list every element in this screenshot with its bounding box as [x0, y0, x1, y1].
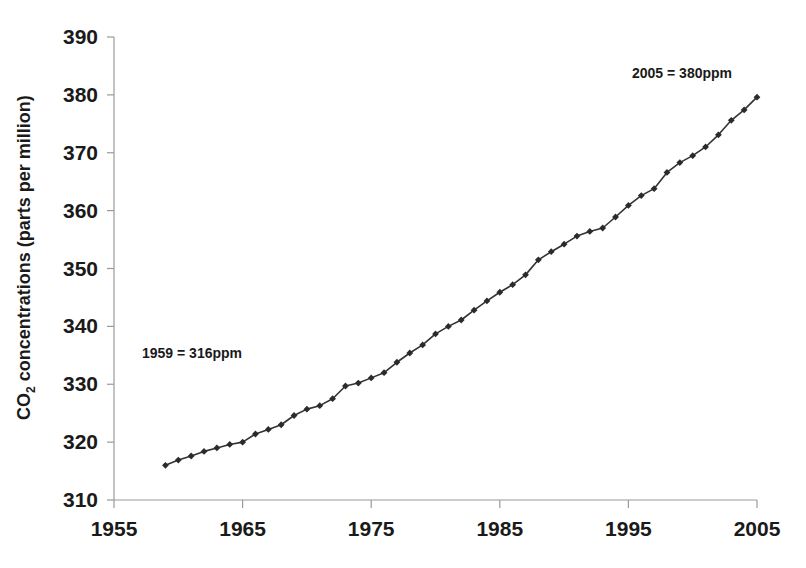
data-series-co2: [162, 94, 760, 469]
start-annotation: 1959 = 316ppm: [142, 345, 242, 361]
y-axis-title-suffix: concentrations (parts per million): [14, 95, 34, 386]
x-axis-ticks: 195519651975198519952005: [91, 500, 781, 540]
y-tick-label: 340: [63, 314, 98, 337]
y-tick-label: 380: [63, 83, 98, 106]
y-tick-label: 360: [63, 199, 98, 222]
data-point-marker: [162, 462, 169, 469]
data-point-marker: [316, 402, 323, 409]
y-axis-title: CO2 concentrations (parts per million): [14, 95, 38, 420]
data-point-marker: [226, 441, 233, 448]
co2-line-chart: CO2 concentrations (parts per million) 3…: [0, 0, 806, 568]
y-axis-title-prefix: CO: [14, 393, 34, 420]
data-point-marker: [201, 448, 208, 455]
data-point-marker: [188, 453, 195, 460]
y-tick-label: 330: [63, 372, 98, 395]
series-markers: [162, 94, 760, 469]
data-point-marker: [445, 323, 452, 330]
x-tick-label: 1965: [219, 517, 266, 540]
svg-text:CO2 concentrations (parts per: CO2 concentrations (parts per million): [14, 95, 38, 420]
x-tick-label: 1955: [91, 517, 138, 540]
x-tick-label: 1985: [476, 517, 523, 540]
series-line: [165, 97, 757, 465]
y-tick-label: 320: [63, 430, 98, 453]
y-tick-label: 350: [63, 257, 98, 280]
y-tick-label: 310: [63, 488, 98, 511]
data-point-marker: [368, 374, 375, 381]
data-point-marker: [265, 426, 272, 433]
y-axis-ticks: 310320330340350360370380390: [63, 25, 114, 511]
data-point-marker: [586, 228, 593, 235]
y-tick-label: 370: [63, 141, 98, 164]
data-point-marker: [175, 457, 182, 464]
chart-page: CO2 concentrations (parts per million) 3…: [0, 0, 806, 568]
x-tick-label: 1995: [605, 517, 652, 540]
x-tick-label: 1975: [348, 517, 395, 540]
y-tick-label: 390: [63, 25, 98, 48]
x-tick-label: 2005: [734, 517, 781, 540]
end-annotation: 2005 = 380ppm: [632, 65, 732, 81]
data-point-marker: [213, 445, 220, 452]
data-point-marker: [355, 380, 362, 387]
data-point-marker: [304, 406, 311, 413]
axes: [114, 37, 757, 500]
